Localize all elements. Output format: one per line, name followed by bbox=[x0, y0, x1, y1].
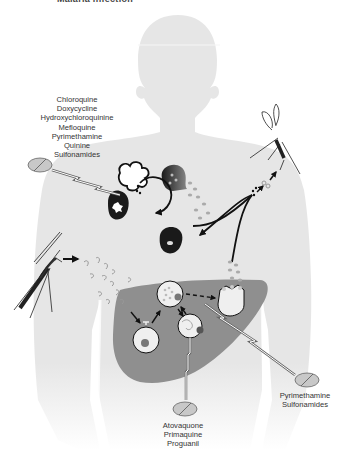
liver-schizont-drug-list: Pyrimethamine Sulfonamides bbox=[270, 391, 340, 409]
liver-schizont bbox=[157, 281, 183, 307]
malaria-lifecycle-diagram bbox=[0, 0, 344, 450]
drug-label: Hydroxychloroquinine bbox=[24, 113, 130, 122]
drug-label: Quinine bbox=[24, 141, 130, 150]
drug-label: Sulfonamides bbox=[270, 400, 340, 409]
drug-label: Sulfonamides bbox=[24, 150, 130, 159]
drug-label: Proguanil bbox=[148, 439, 218, 448]
blood-stage-drug-list: Chloroquine Doxycycline Hydroxychloroqui… bbox=[24, 95, 130, 159]
rupturing-schizont bbox=[218, 285, 244, 316]
drug-label: Doxycycline bbox=[24, 104, 130, 113]
drug-label: Mefloquine bbox=[24, 123, 130, 132]
drug-label: Atovaquone bbox=[148, 421, 218, 430]
drug-label: Pyrimethamine bbox=[270, 391, 340, 400]
drug-label: Primaquine bbox=[148, 430, 218, 439]
drug-label: Pyrimethamine bbox=[24, 132, 130, 141]
liver-stage-drug-list: Atovaquone Primaquine Proguanil bbox=[148, 421, 218, 449]
drug-label: Chloroquine bbox=[24, 95, 130, 104]
